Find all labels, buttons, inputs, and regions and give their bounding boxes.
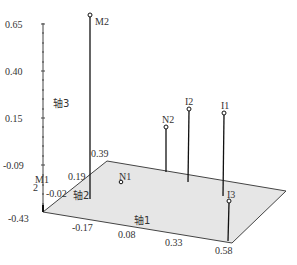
- x-tick-0.33: 0.33: [165, 237, 183, 248]
- point-label: I1: [221, 100, 229, 111]
- z-tick-0.15: 0.15: [5, 113, 23, 124]
- y-tick--0.02: -0.02: [46, 188, 67, 199]
- chart-3d: 0.65 0.40 0.15 -0.09 2 轴3 -0.02 0.19 0.3…: [0, 0, 297, 265]
- x-tick-0.58: 0.58: [215, 245, 233, 256]
- point-N1: N1: [119, 171, 131, 184]
- z-tick-0.40: 0.40: [5, 66, 23, 77]
- point-label: N2: [162, 114, 174, 125]
- y-tick-0.39: 0.39: [91, 148, 109, 159]
- x-tick--0.43: -0.43: [8, 213, 29, 224]
- z-axis-label: 轴3: [53, 97, 69, 109]
- point-N2: N2: [162, 114, 174, 172]
- point-label: I2: [185, 96, 193, 107]
- z-tick-0.65: 0.65: [5, 19, 23, 30]
- y-tick-0.19: 0.19: [68, 171, 86, 182]
- point-label: N1: [119, 171, 131, 182]
- y-axis-label: 轴2: [73, 189, 89, 201]
- point-label: M2: [95, 16, 109, 27]
- point-I2: I2: [185, 96, 193, 182]
- z-tick--0.09: -0.09: [3, 160, 24, 171]
- point-label: M1: [35, 174, 49, 185]
- x-axis-label: 轴1: [134, 214, 150, 226]
- x-tick--0.17: -0.17: [72, 222, 93, 233]
- x-tick-0.08: 0.08: [118, 229, 136, 240]
- point-label: I3: [227, 189, 235, 200]
